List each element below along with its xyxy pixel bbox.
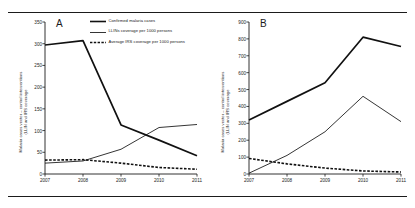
y-tick-label: 50	[37, 150, 42, 155]
x-tick-label: 2007	[40, 178, 50, 183]
x-tick-label: 2009	[116, 178, 126, 183]
x-tick-label: 2011	[192, 178, 202, 183]
top-divider-rule	[8, 12, 407, 13]
series-line	[45, 124, 197, 163]
plot-area-b	[249, 22, 401, 174]
x-tick-label: 2007	[244, 178, 254, 183]
x-axis-ticks-b: 20072008200920102011	[249, 178, 401, 188]
y-tick-label: 0	[39, 172, 42, 177]
x-tick-label: 2008	[78, 178, 88, 183]
y-tick-label: 900	[238, 20, 246, 25]
y-tick-label: 300	[238, 121, 246, 126]
legend-label-irs-coverage: Average IRS coverage per 1000 persons	[109, 39, 185, 44]
y-tick-label: 200	[34, 85, 42, 90]
legend-label-llins-coverage: LLINs coverage per 1000 persons	[109, 28, 173, 33]
x-tick-label: 2011	[396, 178, 406, 183]
legend-key-solid-thin-icon	[90, 31, 106, 34]
y-tick-label: 500	[238, 87, 246, 92]
series-line	[45, 41, 197, 156]
legend-key-solid-thick-icon	[90, 20, 106, 23]
x-tick-label: 2010	[358, 178, 368, 183]
y-tick-label: 0	[243, 172, 246, 177]
series-line	[249, 158, 401, 172]
x-tick-label: 2009	[320, 178, 330, 183]
chart-legend: Confirmed malaria cases LLINs coverage p…	[90, 18, 210, 49]
y-tick-label: 100	[34, 128, 42, 133]
x-tick-label: 2008	[282, 178, 292, 183]
y-tick-label: 350	[34, 20, 42, 25]
y-tick-label: 300	[34, 41, 42, 46]
series-line	[45, 160, 197, 170]
figure-container: Malaria cases vector – control intervent…	[0, 0, 415, 208]
plot-svg-b	[249, 22, 401, 174]
axes-b	[246, 22, 401, 177]
legend-item-confirmed-malaria-cases: Confirmed malaria cases	[90, 18, 210, 23]
y-tick-label: 200	[238, 138, 246, 143]
legend-key-dashed-icon	[90, 41, 106, 44]
chart-panel-b: Malaria cases vector – control intervent…	[208, 14, 412, 196]
y-axis-ticks-b: 0100200300400500600700800900	[216, 22, 246, 174]
series-group-b	[249, 37, 401, 173]
y-tick-label: 800	[238, 36, 246, 41]
legend-label-confirmed-malaria-cases: Confirmed malaria cases	[109, 18, 156, 23]
series-group-a	[45, 41, 197, 170]
series-line	[249, 37, 401, 120]
y-tick-label: 150	[34, 106, 42, 111]
y-tick-label: 100	[238, 155, 246, 160]
bottom-divider-rule	[8, 196, 407, 197]
y-tick-label: 600	[238, 70, 246, 75]
legend-item-llins-coverage: LLINs coverage per 1000 persons	[90, 28, 210, 33]
chart-panel-a: Malaria cases vector – control intervent…	[4, 14, 208, 196]
legend-item-irs-coverage: Average IRS coverage per 1000 persons	[90, 39, 210, 44]
y-tick-label: 400	[238, 104, 246, 109]
x-tick-label: 2010	[154, 178, 164, 183]
y-tick-label: 700	[238, 53, 246, 58]
y-tick-label: 250	[34, 63, 42, 68]
y-axis-ticks-a: 050100150200250300350	[12, 22, 42, 174]
x-axis-ticks-a: 20072008200920102011	[45, 178, 197, 188]
